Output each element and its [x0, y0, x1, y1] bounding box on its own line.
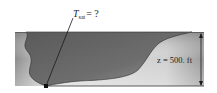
measurement-point-marker [44, 84, 48, 88]
lake-depth-diagram: Tsat= ? z = 500. ft [0, 0, 217, 93]
depth-label: z = 500. ft [157, 55, 193, 65]
tsat-question-label: Tsat= ? [73, 8, 99, 20]
